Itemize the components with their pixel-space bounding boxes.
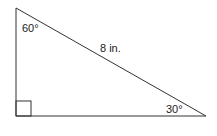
top-angle-label: 60° [22, 23, 39, 34]
triangle-diagram [0, 0, 217, 136]
hypotenuse-label: 8 in. [100, 43, 121, 54]
triangle [16, 8, 206, 116]
right-angle-marker [16, 101, 31, 116]
bottom-right-angle-label: 30° [166, 104, 183, 115]
